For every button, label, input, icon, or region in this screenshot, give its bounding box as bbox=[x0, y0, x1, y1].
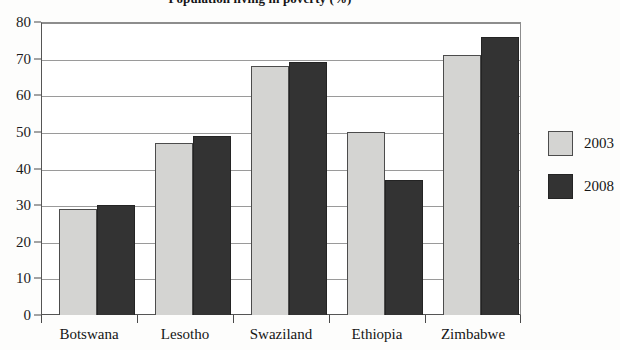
y-tick-label: 70 bbox=[16, 51, 34, 66]
x-category-label: Swaziland bbox=[233, 327, 329, 342]
x-category-swaziland: Swaziland bbox=[233, 315, 329, 350]
chart-title: Population living in poverty (%) bbox=[0, 0, 520, 7]
y-tick-label: 60 bbox=[16, 88, 34, 103]
y-tick-20: 20 bbox=[16, 234, 41, 249]
x-category-label: Botswana bbox=[41, 327, 137, 342]
bar-group-botswana bbox=[41, 22, 137, 315]
x-tick-mark bbox=[329, 315, 330, 323]
chart-screenshot: Population living in poverty (%) 8070605… bbox=[0, 0, 620, 350]
y-tick-mark bbox=[34, 205, 41, 206]
x-category-label: Zimbabwe bbox=[425, 327, 521, 342]
y-tick-mark bbox=[34, 131, 41, 132]
legend-swatch-2003 bbox=[548, 131, 573, 156]
y-tick-80: 80 bbox=[16, 15, 41, 30]
x-tick-mark bbox=[137, 315, 138, 323]
y-tick-mark bbox=[34, 168, 41, 169]
legend-item-2003: 2003 bbox=[548, 131, 614, 156]
y-tick-label: 30 bbox=[16, 198, 34, 213]
x-category-label: Ethiopia bbox=[329, 327, 425, 342]
y-tick-label: 50 bbox=[16, 124, 34, 139]
y-tick-60: 60 bbox=[16, 88, 41, 103]
bar-zimbabwe-2008 bbox=[481, 37, 519, 315]
bar-group-zimbabwe bbox=[425, 22, 521, 315]
x-category-ethiopia: Ethiopia bbox=[329, 315, 425, 350]
x-category-lesotho: Lesotho bbox=[137, 315, 233, 350]
bar-lesotho-2003 bbox=[155, 143, 193, 315]
y-tick-70: 70 bbox=[16, 51, 41, 66]
x-tick-mark bbox=[41, 315, 42, 323]
y-tick-label: 40 bbox=[16, 161, 34, 176]
y-tick-mark bbox=[34, 95, 41, 96]
y-tick-label: 10 bbox=[16, 271, 34, 286]
x-axis: BotswanaLesothoSwazilandEthiopiaZimbabwe bbox=[41, 315, 521, 350]
bar-swaziland-2008 bbox=[289, 62, 327, 315]
bar-zimbabwe-2003 bbox=[443, 55, 481, 315]
bar-swaziland-2003 bbox=[251, 66, 289, 315]
bars-layer bbox=[41, 22, 521, 315]
y-tick-mark bbox=[34, 315, 41, 316]
legend-label: 2008 bbox=[584, 179, 614, 194]
y-tick-label: 20 bbox=[16, 234, 34, 249]
bar-botswana-2003 bbox=[59, 209, 97, 315]
y-tick-0: 0 bbox=[24, 308, 42, 323]
y-tick-mark bbox=[34, 278, 41, 279]
bar-botswana-2008 bbox=[97, 205, 135, 315]
bar-group-swaziland bbox=[233, 22, 329, 315]
y-tick-30: 30 bbox=[16, 198, 41, 213]
y-tick-mark bbox=[34, 22, 41, 23]
bar-group-lesotho bbox=[137, 22, 233, 315]
bar-lesotho-2008 bbox=[193, 136, 231, 315]
bar-ethiopia-2008 bbox=[385, 180, 423, 316]
legend-swatch-2008 bbox=[548, 174, 573, 199]
y-tick-label: 80 bbox=[16, 15, 34, 30]
chart-legend: 20032008 bbox=[548, 131, 614, 199]
y-tick-40: 40 bbox=[16, 161, 41, 176]
x-tick-mark-end bbox=[520, 315, 521, 323]
y-tick-label: 0 bbox=[24, 308, 35, 323]
bar-group-ethiopia bbox=[329, 22, 425, 315]
legend-label: 2003 bbox=[584, 136, 614, 151]
y-axis: 80706050403020100 bbox=[0, 22, 41, 315]
x-tick-mark bbox=[425, 315, 426, 323]
y-tick-mark bbox=[34, 241, 41, 242]
y-tick-mark bbox=[34, 58, 41, 59]
x-tick-mark bbox=[233, 315, 234, 323]
x-category-botswana: Botswana bbox=[41, 315, 137, 350]
bar-ethiopia-2003 bbox=[347, 132, 385, 315]
x-category-zimbabwe: Zimbabwe bbox=[425, 315, 521, 350]
legend-item-2008: 2008 bbox=[548, 174, 614, 199]
y-tick-50: 50 bbox=[16, 124, 41, 139]
y-tick-10: 10 bbox=[16, 271, 41, 286]
x-category-label: Lesotho bbox=[137, 327, 233, 342]
